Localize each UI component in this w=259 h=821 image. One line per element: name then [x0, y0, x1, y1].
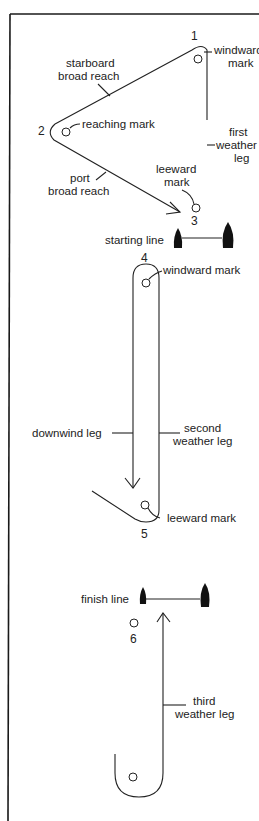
course-1: 1 2 3 windward mark starboard broad reac…	[38, 29, 259, 248]
third-weather-label-2: weather leg	[174, 708, 234, 720]
reaching-mark-label: reaching mark	[82, 118, 155, 130]
starboard-label-2: broad reach	[58, 70, 119, 82]
windward-mark-1-icon	[194, 55, 202, 63]
committee-boat-icon	[174, 228, 182, 248]
windward-mark-label-1: windward	[213, 44, 259, 56]
mark-number-2: 2	[38, 124, 45, 138]
mark-number-6: 6	[130, 632, 137, 646]
leader-line	[149, 271, 162, 279]
leader-line	[70, 124, 80, 128]
starting-line-label: starting line	[105, 234, 164, 246]
frame-left	[8, 14, 10, 821]
second-weather-label-2: weather leg	[172, 435, 232, 447]
leader-line	[96, 172, 106, 180]
windward-mark-4-icon	[142, 279, 150, 287]
mark-number-4: 4	[141, 251, 148, 265]
leader-line	[98, 84, 110, 96]
finish-line-label: finish line	[81, 593, 129, 605]
leeward-mark-5-label: leeward mark	[167, 512, 236, 524]
course-2: 4 5 windward mark leeward mark downwind …	[32, 251, 241, 541]
port-label-1: port	[70, 172, 91, 184]
race-course-diagram: 1 2 3 windward mark starboard broad reac…	[0, 0, 259, 821]
leeward-mark-label-2: mark	[164, 176, 190, 188]
leeward-mark-3-icon	[192, 204, 200, 212]
committee-boat-icon	[140, 587, 146, 604]
reaching-mark-2-icon	[62, 128, 70, 136]
first-weather-label-1: first	[229, 126, 248, 138]
second-weather-label-1: second	[184, 422, 221, 434]
leeward-mark-label-1: leeward	[156, 163, 196, 175]
first-weather-label-3: leg	[234, 152, 249, 164]
pin-boat-icon	[201, 583, 210, 607]
mark-6-icon	[130, 619, 138, 627]
downwind-leg-label: downwind leg	[32, 427, 102, 439]
leeward-mark-5-icon	[141, 501, 149, 509]
mark-number-1: 1	[191, 29, 198, 43]
mark-number-3: 3	[191, 214, 198, 228]
leader-line	[182, 190, 194, 204]
pin-boat-icon	[223, 222, 234, 248]
windward-leeward-legs	[133, 264, 159, 510]
mark-number-5: 5	[141, 527, 148, 541]
course-3: finish line 6 third weather leg	[81, 583, 234, 797]
rounding-mark-icon	[129, 773, 137, 781]
starboard-label-1: starboard	[66, 57, 115, 69]
third-weather-label-1: third	[193, 695, 215, 707]
port-label-2: broad reach	[48, 185, 109, 197]
windward-mark-4-label: windward mark	[162, 264, 241, 276]
first-weather-label-2: weather	[215, 139, 257, 151]
windward-mark-label-2: mark	[228, 57, 254, 69]
third-weather-leg-line	[115, 613, 163, 797]
